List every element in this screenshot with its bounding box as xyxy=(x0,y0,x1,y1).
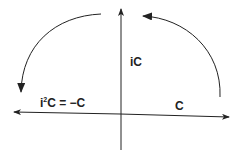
rotation-arc-left xyxy=(21,14,101,92)
label-i2c-rest: C = −C xyxy=(47,96,85,110)
label-ic: iC xyxy=(130,55,142,69)
label-i2c: i2C = −C xyxy=(40,96,85,110)
rotation-diagram: iC C i2C = −C xyxy=(0,0,244,158)
rotation-arc-right xyxy=(143,16,220,97)
label-c: C xyxy=(175,99,184,113)
diagram-canvas xyxy=(0,0,244,158)
